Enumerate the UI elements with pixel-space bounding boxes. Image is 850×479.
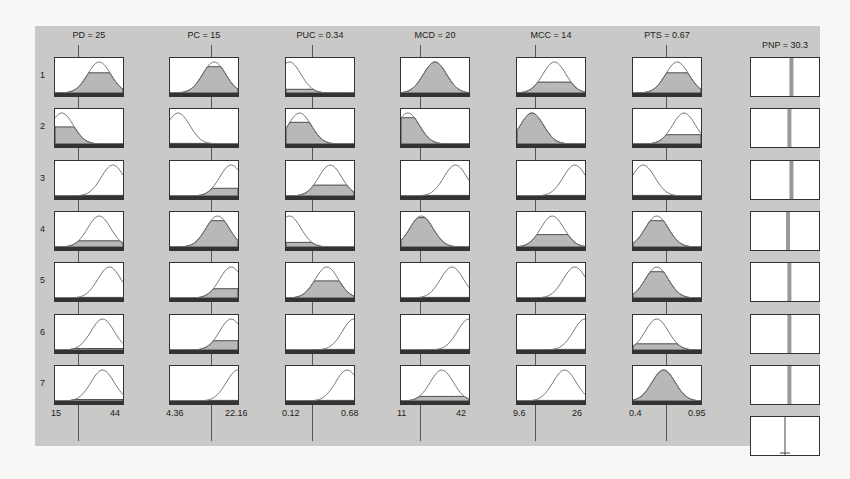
output-bar	[751, 109, 819, 147]
membership-curve	[286, 263, 354, 301]
axis-max-pts: 0.95	[688, 408, 706, 418]
output-plot	[750, 365, 820, 405]
membership-curve	[286, 212, 354, 250]
membership-curve	[401, 212, 469, 250]
output-bar	[751, 161, 819, 199]
mf-plot	[516, 57, 586, 97]
output-plot	[750, 211, 820, 251]
mf-plot	[285, 108, 355, 148]
membership-curve	[633, 58, 701, 96]
mf-plot	[516, 211, 586, 251]
membership-curve	[517, 161, 585, 199]
aggregate-output-plot	[750, 416, 820, 456]
rule-number: 1	[40, 70, 45, 80]
input-title-pts: PTS = 0.67	[644, 30, 689, 40]
membership-curve	[55, 161, 123, 199]
mf-plot	[285, 365, 355, 405]
mf-plot	[516, 160, 586, 200]
membership-curve	[170, 58, 238, 96]
mf-plot	[54, 314, 124, 354]
axis-min-mcd: 11	[397, 408, 406, 418]
input-title-mcc: MCC = 14	[531, 30, 572, 40]
input-title-mcd: MCD = 20	[415, 30, 456, 40]
rule-number: 5	[40, 275, 45, 285]
membership-curve	[401, 263, 469, 301]
membership-curve	[55, 263, 123, 301]
mf-plot	[516, 365, 586, 405]
membership-curve	[401, 315, 469, 353]
output-bar	[751, 212, 819, 250]
output-bar	[751, 58, 819, 96]
output-plot	[750, 160, 820, 200]
mf-plot	[54, 57, 124, 97]
membership-curve	[517, 212, 585, 250]
rule-number: 4	[40, 224, 45, 234]
mf-plot	[285, 314, 355, 354]
membership-curve	[517, 109, 585, 147]
mf-plot	[54, 160, 124, 200]
output-plot	[750, 314, 820, 354]
output-bar	[751, 315, 819, 353]
membership-curve	[633, 161, 701, 199]
axis-max-mcd: 42	[456, 408, 466, 418]
mf-plot	[632, 365, 702, 405]
output-bar	[751, 366, 819, 404]
mf-plot	[400, 365, 470, 405]
output-plot	[750, 262, 820, 302]
mf-plot	[54, 211, 124, 251]
rule-number: 2	[40, 121, 45, 131]
axis-max-pc: 22.16	[225, 408, 248, 418]
membership-curve	[55, 212, 123, 250]
mf-plot	[632, 314, 702, 354]
mf-plot	[285, 160, 355, 200]
axis-max-pd: 44	[110, 408, 120, 418]
mf-plot	[169, 365, 239, 405]
membership-curve	[633, 315, 701, 353]
membership-curve	[517, 263, 585, 301]
membership-curve	[286, 315, 354, 353]
mf-plot	[169, 314, 239, 354]
membership-curve	[401, 161, 469, 199]
membership-curve	[633, 212, 701, 250]
output-plot	[750, 57, 820, 97]
membership-curve	[633, 109, 701, 147]
membership-curve	[633, 366, 701, 404]
mf-plot	[54, 365, 124, 405]
mf-plot	[400, 262, 470, 302]
mf-plot	[632, 57, 702, 97]
mf-plot	[516, 262, 586, 302]
input-title-puc: PUC = 0.34	[297, 30, 344, 40]
output-bar	[751, 263, 819, 301]
membership-curve	[55, 366, 123, 404]
mf-plot	[169, 160, 239, 200]
mf-plot	[169, 211, 239, 251]
membership-curve	[286, 58, 354, 96]
membership-curve	[286, 366, 354, 404]
mf-plot	[169, 57, 239, 97]
membership-curve	[286, 161, 354, 199]
mf-plot	[400, 314, 470, 354]
output-title-pnp: PNP = 30.3	[762, 40, 808, 50]
membership-curve	[170, 212, 238, 250]
membership-curve	[55, 315, 123, 353]
membership-curve	[170, 315, 238, 353]
axis-min-mcc: 9.6	[513, 408, 526, 418]
membership-curve	[170, 366, 238, 404]
defuzzified-line	[751, 417, 819, 455]
mf-plot	[169, 262, 239, 302]
output-plot	[750, 108, 820, 148]
rule-number: 3	[40, 173, 45, 183]
membership-curve	[170, 109, 238, 147]
axis-max-puc: 0.68	[341, 408, 359, 418]
membership-curve	[517, 315, 585, 353]
rule-number: 6	[40, 327, 45, 337]
mf-plot	[400, 211, 470, 251]
mf-plot	[54, 262, 124, 302]
mf-plot	[169, 108, 239, 148]
axis-min-pc: 4.36	[166, 408, 184, 418]
input-title-pc: PC = 15	[188, 30, 221, 40]
axis-min-pd: 15	[51, 408, 61, 418]
mf-plot	[400, 160, 470, 200]
membership-curve	[170, 161, 238, 199]
rule-number: 7	[40, 378, 45, 388]
